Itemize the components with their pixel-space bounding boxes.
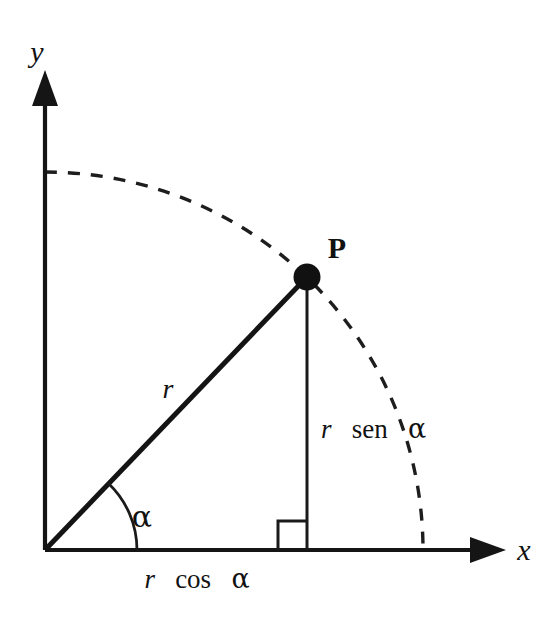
opposite-side-label: r sen α [321,413,426,444]
adjacent-side-var: r [144,564,155,594]
x-axis-label: x [516,533,531,566]
opposite-side-space2 [395,414,402,444]
adjacent-side-func: cos [175,564,211,594]
y-axis-label: y [27,35,44,68]
adjacent-side-angle: α [231,563,249,594]
adjacent-side-space [162,564,169,594]
point-p-marker[interactable] [294,264,321,291]
opposite-side-var: r [321,414,332,444]
adjacent-side-label: r cos α [144,563,249,594]
y-axis-arrowhead-icon [32,70,58,106]
polar-coordinates-figure: y x P r α r sen α r cos α [0,0,548,618]
right-angle-marker [278,521,307,550]
adjacent-side-space2 [218,564,225,594]
opposite-side-angle: α [408,413,426,444]
point-p-label: P [328,231,346,264]
diagram-canvas: y x P r α r sen α r cos α [0,0,548,618]
opposite-side-func: sen [352,414,388,444]
radius-segment [45,277,307,550]
opposite-side-space [338,414,345,444]
angle-label: α [132,499,152,534]
x-axis-arrowhead-icon [470,537,506,563]
radius-label: r [163,373,174,404]
